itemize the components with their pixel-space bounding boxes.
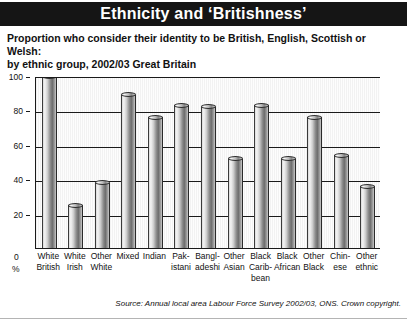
bar-slot (195, 78, 222, 248)
bar (281, 159, 296, 248)
y-tick-mark-40 (26, 180, 30, 181)
x-tick-label: Otherethnic (351, 251, 382, 273)
y-tick-label-80: 80 (14, 106, 23, 116)
plot-wrapper (35, 77, 380, 249)
bar (254, 105, 269, 248)
y-axis-unit-label: % (12, 264, 20, 274)
y-axis-labels: 20406080100 (0, 77, 30, 249)
y-tick-mark-60 (26, 146, 30, 147)
bar-slot (142, 78, 169, 248)
y-tick-mark-100 (26, 77, 30, 78)
bar-slot (354, 78, 380, 248)
y-tick-label-40: 40 (14, 175, 23, 185)
x-tick-label-line: bean (245, 273, 276, 284)
bar-slot (116, 78, 143, 248)
y-axis-origin-label: 0 (14, 252, 19, 262)
bar (174, 105, 189, 248)
source-note: Source: Annual local area Labour Force S… (115, 299, 401, 308)
y-tick-label-60: 60 (14, 141, 23, 151)
bar (42, 77, 57, 248)
y-tick-mark-20 (26, 215, 30, 216)
bar (228, 159, 243, 248)
chart-subtitle: Proportion who consider their identity t… (7, 32, 401, 71)
plot-area (35, 77, 380, 249)
x-tick-label-line: ethnic (351, 262, 382, 273)
bar-slot (36, 78, 63, 248)
x-axis-labels: WhiteBritishWhiteIrishOtherWhiteMixedInd… (35, 251, 380, 285)
title-band: Ethnicity and ‘Britishness’ (0, 2, 407, 26)
bar-slot (63, 78, 90, 248)
chart-subtitle-line1: Proportion who consider their identity t… (7, 32, 366, 57)
bar (68, 205, 83, 248)
bar (201, 107, 216, 248)
bar (334, 155, 349, 248)
y-tick-mark-80 (26, 111, 30, 112)
bar-slot (222, 78, 249, 248)
bar-series (36, 78, 380, 248)
bar-slot (301, 78, 328, 248)
chart-figure: Ethnicity and ‘Britishness’ Proportion w… (0, 0, 407, 326)
bar-slot (328, 78, 355, 248)
bar (307, 117, 322, 248)
bar (121, 95, 136, 248)
bar (360, 186, 375, 248)
bottom-divider (0, 318, 407, 319)
chart-subtitle-line2: by ethnic group, 2002/03 Great Britain (7, 58, 401, 71)
bar (148, 117, 163, 248)
bar-slot (248, 78, 275, 248)
bar (95, 183, 110, 248)
x-tick-label-line: White (86, 262, 117, 273)
y-tick-label-20: 20 (14, 210, 23, 220)
bar-slot (169, 78, 196, 248)
page-title: Ethnicity and ‘Britishness’ (0, 2, 407, 26)
bar-slot (275, 78, 302, 248)
bar-slot (89, 78, 116, 248)
x-tick-label-line: Other (351, 251, 382, 262)
y-tick-label-100: 100 (9, 72, 23, 82)
